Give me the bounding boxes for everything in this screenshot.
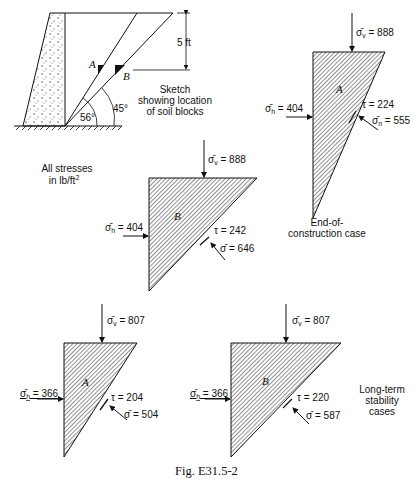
lt-block-b: B σ̄v = 807 σ̄h = 366 τ = 220 σ̄ = 587 — [190, 304, 341, 457]
sigma-h-label: σ̄h = 366 — [190, 388, 229, 400]
eoc-block-b: B σ̄v = 888 σ̄h = 404 τ = 242 σ̄ = 646 — [105, 140, 257, 291]
angle-b-label: 45° — [113, 103, 128, 114]
sigma-n-label: σ̄n = 555 — [372, 115, 411, 127]
lt-label-line1: Long-term — [359, 384, 405, 395]
block-name: B — [262, 375, 269, 387]
sigma-n-label: σ̄ = 646 — [220, 243, 255, 254]
sigma-n-label: σ̄ = 587 — [306, 410, 341, 421]
sigma-v-label: σ̄v = 888 — [356, 27, 394, 39]
sigma-v-label: σ̄v = 888 — [208, 154, 246, 166]
sketch-note-line2: showing location — [138, 95, 212, 106]
tau-label: τ = 224 — [362, 99, 394, 110]
sigma-v-label: σ̄v = 807 — [292, 315, 330, 327]
block-b-label: B — [123, 70, 130, 82]
dimension-label: 5 ft — [177, 37, 191, 48]
block-name: A — [81, 376, 89, 388]
sketch-note-line1: Sketch — [160, 84, 191, 95]
block-name: A — [335, 83, 343, 95]
tau-label: τ = 242 — [214, 225, 246, 236]
lt-block-a: A σ̄v = 807 σ̄h = 366 τ = 204 σ̄ = 504 — [20, 304, 159, 457]
block-name: B — [174, 210, 181, 222]
sigma-h-label: σ̄h = 404 — [265, 103, 304, 115]
sigma-h-label: σ̄h = 366 — [20, 388, 59, 400]
wall-sketch: A B 5 ft 56° 45° Sketch showing location… — [14, 13, 212, 130]
sigma-n-label: σ̄ = 504 — [124, 409, 159, 420]
lt-label-line3: cases — [369, 406, 395, 417]
sigma-h-label: σ̄h = 404 — [105, 222, 144, 234]
eoc-block-a: A σ̄v = 888 σ̄h = 404 τ = 224 σ̄n = 555 — [265, 13, 411, 218]
sketch-note-line3: of soil blocks — [146, 106, 203, 117]
concrete-wall — [23, 13, 65, 126]
figure-canvas: A B 5 ft 56° 45° Sketch showing location… — [0, 0, 418, 488]
tau-label: τ = 220 — [297, 392, 329, 403]
sigma-v-label: σ̄v = 807 — [107, 315, 145, 327]
block-a-label: A — [88, 58, 96, 70]
tau-label: τ = 204 — [111, 392, 143, 403]
figure-caption: Fig. E31.5-2 — [175, 464, 238, 478]
eoc-label-line2: construction case — [288, 228, 366, 239]
angle-a-label: 56° — [80, 112, 95, 123]
units-note-line1: All stresses — [41, 163, 92, 174]
eoc-label-line1: End-of- — [311, 217, 344, 228]
lt-label-line2: stability — [365, 395, 398, 406]
units-note-line2: in lb/ft2 — [49, 174, 80, 186]
